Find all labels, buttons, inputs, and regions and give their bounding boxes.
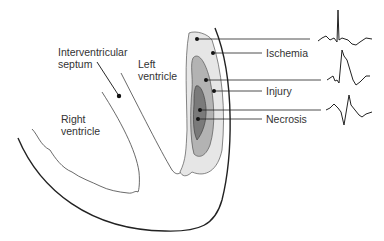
label-necrosis: Necrosis [266,113,307,125]
label-line: Left [138,58,177,70]
mi-zones-diagram: Interventricular septum Left ventricle R… [0,0,384,241]
heart-diagram-svg [0,0,384,241]
label-line: Right [61,113,100,125]
label-interventricular-septum: Interventricular septum [58,46,127,70]
septum-right-line [102,92,139,192]
label-line: ventricle [61,125,100,137]
label-right-ventricle: Right ventricle [61,113,100,137]
label-injury: Injury [266,85,292,97]
ecg-injury-trace [327,50,370,85]
label-line: ventricle [138,70,177,82]
label-line: Interventricular [58,46,127,58]
ecg-necrosis-trace [326,95,372,125]
septum-left-line [121,73,181,174]
label-ischemia: Ischemia [266,47,308,59]
label-left-ventricle: Left ventricle [138,58,177,82]
label-line: septum [58,58,127,70]
ecg-ischemia-trace [318,10,372,45]
